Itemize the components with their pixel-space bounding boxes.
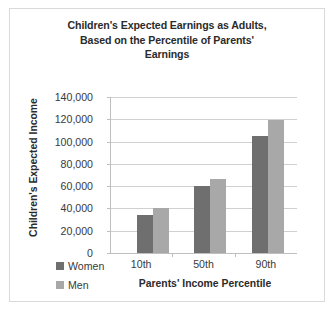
y-axis-tick-mark <box>107 186 111 187</box>
chart-title-line-2: Based on the Percentile of Parents' <box>24 33 310 48</box>
y-axis-tick-mark <box>107 142 111 143</box>
chart-title-line-1: Children's Expected Earnings as Adults, <box>24 18 310 33</box>
x-axis-tick-label-90th: 90th <box>256 258 277 270</box>
y-axis-tick-mark <box>107 231 111 232</box>
bar-men-10th[interactable] <box>153 208 169 253</box>
chart-title-line-3: Earnings <box>24 47 310 62</box>
x-axis-tick-mark <box>172 253 173 257</box>
legend-swatch-men <box>56 281 64 289</box>
y-axis-tick-mark <box>107 164 111 165</box>
bars-layer <box>124 97 297 253</box>
bar-group-50th <box>194 97 226 253</box>
bar-women-50th[interactable] <box>194 186 210 253</box>
legend-item-men[interactable]: Men <box>56 275 104 294</box>
x-axis-title: Parents' Income Percentile <box>110 278 300 289</box>
y-axis-tick-label: 80,000 <box>29 158 93 170</box>
legend-label-women: Women <box>68 260 104 272</box>
y-axis-tick-label: 120,000 <box>29 113 93 125</box>
y-axis-tick-mark <box>107 119 111 120</box>
chart-title: Children's Expected Earnings as Adults, … <box>24 18 310 62</box>
legend-item-women[interactable]: Women <box>56 256 104 275</box>
bar-group-90th <box>252 97 284 253</box>
legend-label-men: Men <box>68 279 89 291</box>
plot-area: 020,00040,00060,00080,000100,000120,0001… <box>97 97 297 253</box>
y-axis-tick-label: 140,000 <box>29 91 93 103</box>
y-axis-tick-mark <box>107 208 111 209</box>
bar-men-50th[interactable] <box>210 179 226 253</box>
chart-container: Children's Expected Earnings as Adults, … <box>9 8 325 302</box>
x-axis-tick-labels: 10th50th90th <box>110 258 297 270</box>
x-axis-tick-label-10th: 10th <box>131 258 152 270</box>
y-axis-tick-label: 40,000 <box>29 202 93 214</box>
chart-legend: WomenMen <box>56 256 104 294</box>
y-axis-tick-mark <box>107 97 111 98</box>
plot-grid <box>110 97 297 253</box>
x-axis-tick-label-50th: 50th <box>193 258 214 270</box>
y-axis-tick-label: 100,000 <box>29 136 93 148</box>
y-axis-tick-label: 20,000 <box>29 225 93 237</box>
x-axis-line <box>110 253 297 254</box>
bar-group-10th <box>137 97 169 253</box>
x-axis-tick-mark <box>235 253 236 257</box>
bar-women-10th[interactable] <box>137 215 153 253</box>
legend-swatch-women <box>56 262 64 270</box>
bar-men-90th[interactable] <box>268 120 284 253</box>
bar-women-90th[interactable] <box>252 136 268 253</box>
y-axis-tick-label: 60,000 <box>29 180 93 192</box>
